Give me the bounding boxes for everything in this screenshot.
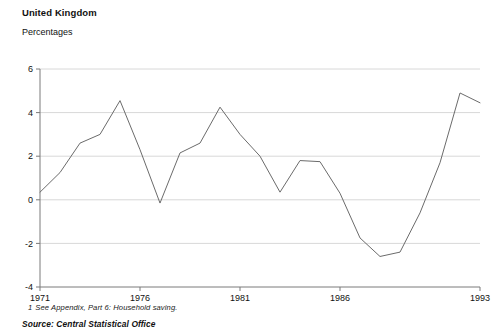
- footnote-number: 1: [28, 303, 32, 312]
- x-axis-tick-label: 1986: [330, 293, 350, 303]
- chart-page: United Kingdom Percentages 6420-2-419711…: [0, 0, 493, 335]
- data-line-series: [40, 93, 480, 257]
- y-axis-tick-label: -2: [25, 239, 33, 249]
- chart-plot-area: 6420-2-419711976198119861993: [0, 0, 493, 335]
- y-axis-tick-label: 2: [28, 151, 33, 161]
- chart-footnote: 1See Appendix, Part 6: Household saving.: [28, 303, 177, 312]
- line-chart: 6420-2-419711976198119861993: [0, 0, 493, 335]
- x-axis-tick-label: 1976: [130, 293, 150, 303]
- chart-source: Source: Central Statistical Office: [22, 319, 156, 329]
- y-axis-tick-label: 6: [28, 64, 33, 74]
- y-axis-tick-label: -4: [25, 282, 33, 292]
- footnote-text: See Appendix, Part 6: Household saving.: [35, 303, 177, 312]
- x-axis-tick-label: 1993: [470, 293, 490, 303]
- y-axis-tick-label: 4: [28, 108, 33, 118]
- x-axis-tick-label: 1981: [230, 293, 250, 303]
- y-axis-tick-label: 0: [28, 195, 33, 205]
- x-axis-tick-label: 1971: [30, 293, 50, 303]
